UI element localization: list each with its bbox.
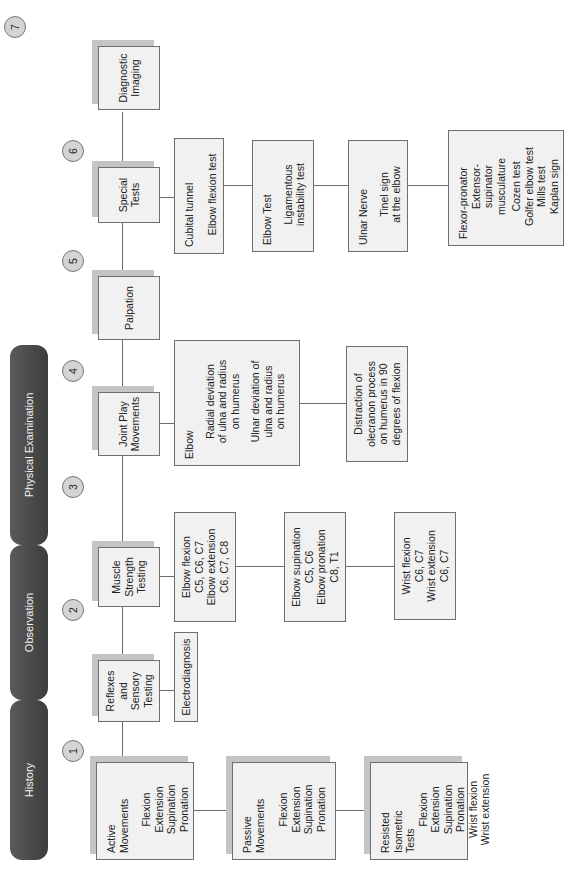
box-title: Resisted: [379, 812, 392, 853]
movement-item: Extension: [429, 786, 442, 832]
joint-play-elbow-box: Elbow Radial deviation of ulna and radiu…: [174, 340, 300, 466]
box-title: Imaging: [129, 59, 142, 96]
joint-play-distraction-box: Distraction of olecranon process on hume…: [346, 346, 408, 462]
box-title: Passive: [241, 816, 254, 853]
box-title: Movements: [129, 397, 142, 451]
box-title: Strength: [123, 557, 136, 597]
box-text: C6, C7, C8: [218, 541, 231, 593]
movement-item: Wrist flexion: [467, 781, 480, 838]
step-number-5: 5: [62, 250, 84, 272]
box-heading: Cubital tunnel: [183, 183, 196, 247]
box-title: Testing: [142, 674, 155, 707]
movement-item: Wrist extension: [479, 774, 492, 846]
movement-item: Supination: [302, 785, 315, 835]
box-text: C6, C7: [438, 550, 451, 583]
movement-item: Supination: [165, 785, 178, 835]
box-text: Elbow flexion: [180, 536, 193, 598]
box-title: Testing: [135, 560, 148, 593]
box-text: Wrist extension: [425, 530, 438, 602]
step-number-6: 6: [62, 140, 84, 162]
muscle-sub-box-1: Elbow flexion C5, C6, C7 Elbow extension…: [174, 512, 236, 622]
box-text: on humerus: [274, 374, 287, 429]
passive-movements-box: Passive Movements Flexion Extension Supi…: [232, 762, 336, 860]
muscle-strength-box: Muscle Strength Testing: [98, 547, 160, 607]
box-text: Ligamentous: [282, 164, 295, 224]
diagram-canvas: History Observation Physical Examination…: [0, 0, 583, 882]
box-text: C5, C6: [303, 551, 316, 584]
box-text: Radial deviation: [204, 364, 217, 439]
box-text: C8, T1: [328, 551, 341, 582]
phase-observation: Observation: [10, 545, 48, 700]
box-text: ulna and radius: [262, 366, 275, 438]
connector: [314, 185, 348, 186]
connector: [160, 690, 174, 691]
box-title: Tests: [129, 183, 142, 208]
phase-label: Physical Examination: [23, 393, 35, 498]
box-text: Elbow supination: [290, 527, 303, 606]
phase-history: History: [10, 700, 48, 860]
connector: [194, 810, 232, 811]
connector: [160, 197, 174, 198]
box-text: Golfer elbow test: [523, 147, 536, 226]
resisted-isometric-box: Resisted Isometric Tests Flexion Extensi…: [370, 762, 468, 860]
box-text: olecranon process: [365, 361, 378, 447]
movement-item: Pronation: [454, 787, 467, 832]
box-text: Elbow flexion test: [206, 154, 219, 236]
box-text: on humerus: [229, 374, 242, 429]
box-text: Elbow extension: [205, 529, 218, 605]
box-text: Electrodiagnosis: [180, 638, 193, 715]
box-title: Reflexes: [104, 671, 117, 712]
box-text: on humerus in 90: [377, 363, 390, 444]
step-number-text: 1: [67, 748, 79, 754]
box-title: Muscle: [110, 560, 123, 593]
box-text: C6, C7: [413, 550, 426, 583]
connector: [346, 566, 394, 567]
movement-item: Flexion: [417, 793, 430, 827]
box-title: Active: [105, 824, 118, 853]
step-number-text: 4: [67, 368, 79, 374]
connector: [224, 185, 252, 186]
step-number-3: 3: [62, 476, 84, 498]
step-number-text: 2: [67, 607, 79, 613]
electrodiagnosis-box: Electrodiagnosis: [174, 632, 198, 722]
movement-item: Flexion: [277, 793, 290, 827]
box-text: Ulnar deviation of: [249, 361, 262, 443]
special-ulnar-nerve-box: Ulnar Nerve Tinel sign at the elbow: [348, 140, 408, 252]
box-heading: Flexor-pronator: [457, 167, 470, 239]
palpation-box: Palpation: [98, 276, 160, 340]
connector: [160, 423, 174, 424]
reflexes-sensory-box: Reflexes and Sensory Testing: [98, 660, 160, 722]
box-text: Kaplan sign: [548, 159, 561, 214]
step-number-7: 7: [4, 16, 26, 38]
step-number-2: 2: [62, 599, 84, 621]
movement-item: Flexion: [140, 793, 153, 827]
box-text: C5, C6, C7: [193, 541, 206, 593]
step-number-4: 4: [62, 360, 84, 382]
movement-item: Extension: [290, 786, 303, 832]
box-title: Isometric: [392, 810, 405, 853]
connector: [408, 185, 448, 186]
special-elbow-test-box: Elbow Test Ligamentous instability test: [252, 140, 314, 252]
box-text: Mills test: [535, 166, 548, 207]
box-title: Tests: [404, 828, 417, 853]
connector: [336, 810, 370, 811]
step-number-text: 3: [67, 484, 79, 490]
box-text: Elbow pronation: [315, 529, 328, 604]
box-text: Distraction of: [352, 373, 365, 434]
connector: [236, 566, 284, 567]
phase-label: History: [23, 763, 35, 797]
step-number-1: 1: [62, 740, 84, 762]
connector: [160, 576, 174, 577]
box-text: of ulna and radius: [216, 360, 229, 443]
movement-item: Pronation: [178, 787, 191, 832]
box-title: and: [117, 682, 130, 700]
special-cubital-box: Cubital tunnel Elbow flexion test: [174, 138, 224, 254]
box-title: Special: [117, 178, 130, 212]
box-heading: Ulnar Nerve: [357, 189, 370, 245]
muscle-sub-box-3: Wrist flexion C6, C7 Wrist extension C6,…: [394, 512, 456, 620]
phase-physical-examination: Physical Examination: [10, 345, 48, 545]
movement-item: Pronation: [315, 787, 328, 832]
box-heading: Elbow Test: [261, 194, 274, 245]
muscle-sub-box-2: Elbow supination C5, C6 Elbow pronation …: [284, 512, 346, 622]
step-number-text: 7: [9, 24, 21, 30]
